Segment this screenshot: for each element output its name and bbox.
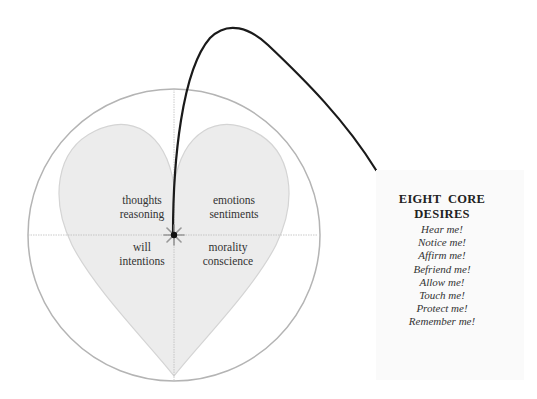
- desire-item: Befriend me!: [376, 263, 508, 276]
- intentions-text: intentions: [104, 254, 180, 268]
- desires-list: Hear me! Notice me! Affirm me! Befriend …: [376, 223, 508, 329]
- core-desires-diagram: thoughts reasoning emotions sentiments w…: [0, 0, 537, 399]
- desire-item: Hear me!: [376, 223, 508, 236]
- will-text: will: [104, 240, 180, 254]
- reasoning-text: reasoning: [104, 207, 180, 221]
- desire-item: Protect me!: [376, 302, 508, 315]
- eight-core-desires-card: EIGHT CORE DESIRES Hear me! Notice me! A…: [376, 170, 524, 380]
- card-title: EIGHT CORE DESIRES: [376, 192, 508, 222]
- card-title-line2: DESIRES: [376, 207, 508, 222]
- card-title-line1: EIGHT CORE: [376, 192, 508, 207]
- conscience-text: conscience: [190, 254, 266, 268]
- emotions-text: emotions: [196, 193, 272, 207]
- desire-item: Allow me!: [376, 276, 508, 289]
- thoughts-text: thoughts: [104, 193, 180, 207]
- sentiments-text: sentiments: [196, 207, 272, 221]
- quadrant-top-right-label: emotions sentiments: [196, 193, 272, 221]
- morality-text: morality: [190, 240, 266, 254]
- quadrant-bottom-right-label: morality conscience: [190, 240, 266, 268]
- quadrant-bottom-left-label: will intentions: [104, 240, 180, 268]
- desire-item: Affirm me!: [376, 249, 508, 262]
- desire-item: Remember me!: [376, 315, 508, 328]
- desire-item: Notice me!: [376, 236, 508, 249]
- desire-item: Touch me!: [376, 289, 508, 302]
- quadrant-top-left-label: thoughts reasoning: [104, 193, 180, 221]
